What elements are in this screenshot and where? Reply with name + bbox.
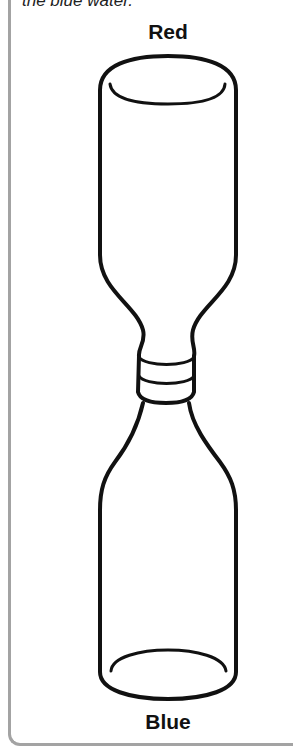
bottle-diagram: [0, 0, 293, 748]
connector-band-top: [139, 357, 194, 365]
connector-band-mid: [139, 376, 194, 384]
bottom-bottle-label: Blue: [108, 710, 228, 734]
top-rim-arc: [110, 84, 225, 104]
bottom-rim-arc: [111, 650, 226, 671]
bottom-bottle-outline: [100, 403, 236, 699]
top-bottle-outline: [100, 56, 236, 356]
